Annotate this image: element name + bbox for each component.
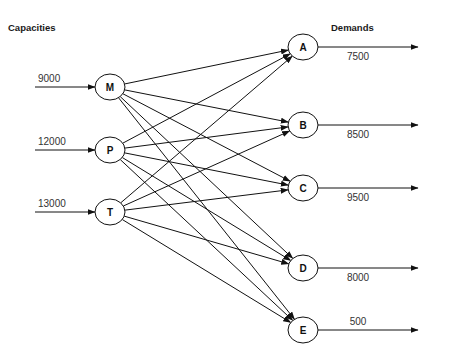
demand-value-e: 500: [350, 316, 367, 327]
source-node-m: M: [95, 74, 125, 100]
edge-t-c: [125, 190, 288, 210]
demand-value-b: 8500: [347, 129, 370, 140]
node-label: M: [106, 82, 114, 93]
edge-t-d: [124, 216, 289, 264]
demand-value-d: 8000: [347, 272, 370, 283]
node-label: B: [299, 120, 306, 131]
demand-arrows-layer: 7500850095008000500: [318, 47, 418, 330]
source-node-p: P: [95, 137, 125, 163]
demands-heading: Demands: [331, 22, 374, 33]
edge-m-b: [125, 90, 289, 122]
capacities-heading: Capacities: [8, 22, 56, 33]
destination-node-c: C: [288, 175, 318, 201]
destination-node-a: A: [288, 34, 318, 60]
node-label: D: [299, 263, 306, 274]
supply-arrows-layer: 90001200013000: [35, 73, 95, 212]
edge-p-d: [122, 157, 290, 260]
destination-node-e: E: [288, 317, 318, 343]
transportation-network-diagram: Capacities Demands 90001200013000 750085…: [0, 0, 449, 360]
capacity-value-m: 9000: [38, 73, 61, 84]
capacity-value-p: 12000: [38, 136, 66, 147]
source-node-t: T: [95, 199, 125, 225]
capacity-value-t: 13000: [38, 198, 66, 209]
node-label: P: [107, 145, 114, 156]
nodes-layer: MPTABCDE: [95, 34, 318, 343]
edges-layer: [119, 50, 295, 322]
node-label: E: [300, 325, 307, 336]
node-label: T: [107, 207, 113, 218]
node-label: C: [299, 183, 306, 194]
demand-value-c: 9500: [347, 192, 370, 203]
demand-value-a: 7500: [347, 51, 370, 62]
destination-node-d: D: [288, 255, 318, 281]
destination-node-b: B: [288, 112, 318, 138]
node-label: A: [299, 42, 306, 53]
edge-m-a: [125, 50, 289, 84]
edge-t-e: [122, 219, 290, 322]
